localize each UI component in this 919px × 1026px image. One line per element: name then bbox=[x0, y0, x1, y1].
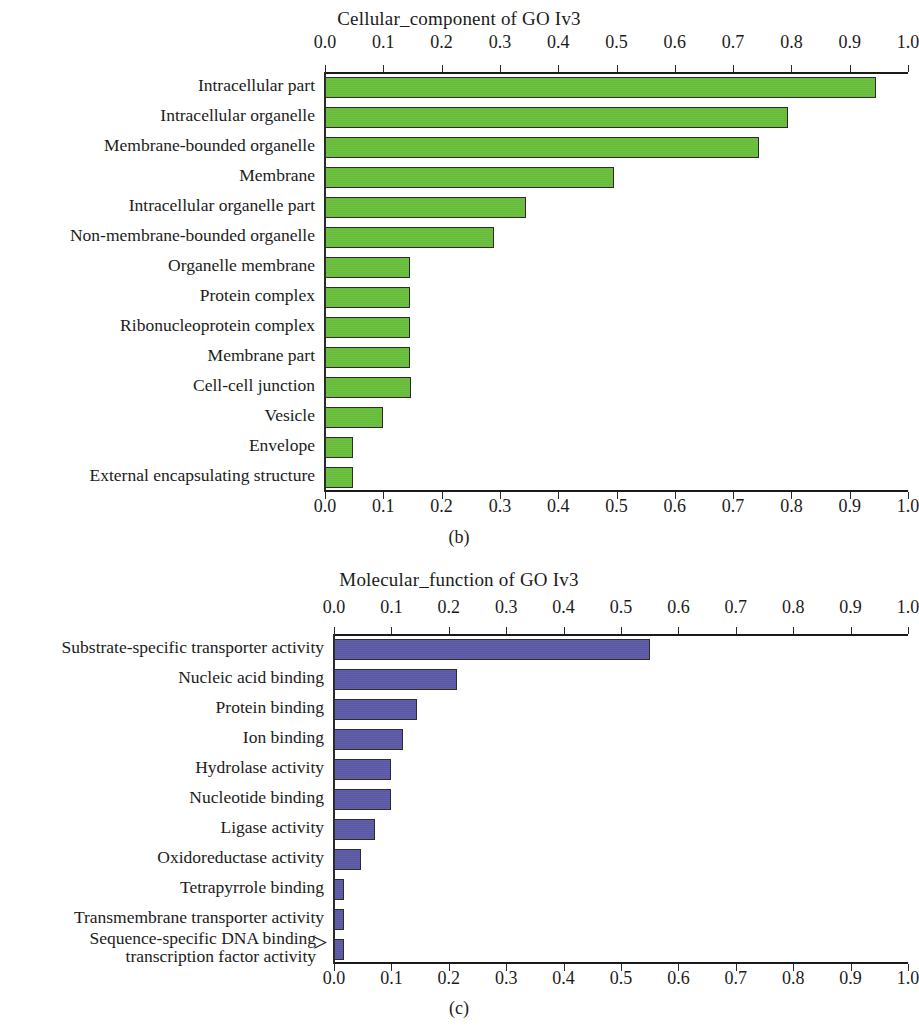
x-axis-tick-label: 0.5 bbox=[605, 32, 628, 53]
category-label: Membrane-bounded organelle bbox=[104, 136, 315, 154]
x-axis-tick-label: 0.9 bbox=[839, 597, 862, 618]
x-axis-tick-label: 1.0 bbox=[897, 32, 919, 53]
x-axis-tick-label: 0.9 bbox=[839, 968, 862, 989]
category-label: Envelope bbox=[249, 436, 315, 454]
x-axis-tick-label: 0.1 bbox=[372, 32, 395, 53]
category-label: Membrane bbox=[239, 166, 315, 184]
category-label: Substrate-specific transporter activity bbox=[62, 638, 324, 656]
x-axis-tick-label: 0.7 bbox=[725, 597, 748, 618]
x-axis-tick-label: 0.1 bbox=[380, 597, 403, 618]
bar bbox=[334, 819, 375, 840]
category-label: Protein complex bbox=[200, 286, 315, 304]
category-label: Ion binding bbox=[243, 728, 324, 746]
x-axis-tick-label: 0.4 bbox=[547, 32, 570, 53]
x-axis-tick-label: 0.9 bbox=[838, 32, 861, 53]
bar bbox=[325, 137, 759, 158]
x-axis-tick bbox=[736, 627, 737, 634]
x-axis-tick-label: 0.9 bbox=[838, 496, 861, 517]
x-axis-tick bbox=[564, 627, 565, 634]
category-label: Nucleotide binding bbox=[189, 788, 324, 806]
x-axis-tick-label: 0.1 bbox=[380, 968, 403, 989]
x-axis-top-tick-labels-c: 0.00.10.20.30.40.50.60.70.80.91.0 bbox=[0, 597, 918, 617]
x-axis-tick bbox=[506, 627, 507, 634]
category-label: Cell-cell junction bbox=[193, 376, 315, 394]
bar bbox=[325, 167, 614, 188]
category-label: Non-membrane-bounded organelle bbox=[70, 226, 315, 244]
x-axis-tick-label: 0.3 bbox=[495, 597, 518, 618]
bar bbox=[325, 227, 494, 248]
bar bbox=[334, 879, 344, 900]
plot-area-cellular-component bbox=[325, 72, 908, 492]
x-axis-tick-label: 0.7 bbox=[722, 496, 745, 517]
x-axis-tick bbox=[621, 627, 622, 634]
category-label: Transmembrane transporter activity bbox=[74, 908, 324, 926]
y-axis-line-b bbox=[324, 72, 326, 492]
panel-caption-c: (c) bbox=[0, 998, 918, 1019]
x-axis-tick-label: 1.0 bbox=[897, 496, 919, 517]
chart-title-molecular-function: Molecular_function of GO Iv3 bbox=[0, 569, 918, 591]
category-label: Intracellular organelle part bbox=[129, 196, 315, 214]
x-axis-tick-label: 0.7 bbox=[722, 32, 745, 53]
x-axis-bottom-tick-labels-b: 0.00.10.20.30.40.50.60.70.80.91.0 bbox=[0, 496, 918, 516]
x-axis-tick bbox=[851, 627, 852, 634]
bar bbox=[325, 437, 353, 458]
x-axis-tick-label: 0.8 bbox=[780, 496, 803, 517]
category-label: Intracellular part bbox=[198, 76, 315, 94]
bar bbox=[334, 909, 344, 930]
x-axis-tick-label: 0.2 bbox=[430, 32, 453, 53]
category-label: Nucleic acid binding bbox=[178, 668, 324, 686]
category-label: Sequence-specific DNA bindingtranscripti… bbox=[16, 929, 324, 965]
x-axis-tick bbox=[449, 627, 450, 634]
bar bbox=[334, 939, 344, 960]
x-axis-tick bbox=[442, 65, 443, 72]
x-axis-tick bbox=[850, 65, 851, 72]
x-axis-tick bbox=[675, 65, 676, 72]
bar bbox=[325, 107, 788, 128]
bar bbox=[334, 729, 403, 750]
x-axis-tick bbox=[793, 627, 794, 634]
category-label: Tetrapyrrole binding bbox=[180, 878, 324, 896]
bar bbox=[325, 347, 410, 368]
bar bbox=[334, 789, 391, 810]
bar bbox=[325, 407, 383, 428]
x-axis-tick-label: 0.2 bbox=[430, 496, 453, 517]
x-axis-tick-label: 0.2 bbox=[438, 597, 461, 618]
x-axis-tick-label: 0.7 bbox=[725, 968, 748, 989]
category-label: Hydrolase activity bbox=[195, 758, 324, 776]
x-axis-tick-label: 0.3 bbox=[495, 968, 518, 989]
x-axis-tick-label: 0.0 bbox=[314, 32, 337, 53]
x-axis-tick bbox=[558, 65, 559, 72]
x-axis-tick-label: 0.8 bbox=[780, 32, 803, 53]
bar bbox=[325, 377, 411, 398]
x-axis-tick-label: 1.0 bbox=[897, 597, 919, 618]
bar bbox=[325, 287, 410, 308]
x-axis-bottom-tick-labels-c: 0.00.10.20.30.40.50.60.70.80.91.0 bbox=[0, 968, 918, 988]
bar bbox=[325, 317, 410, 338]
x-axis-tick-label: 0.6 bbox=[667, 597, 690, 618]
category-label: Protein binding bbox=[216, 698, 324, 716]
x-axis-tick-label: 0.8 bbox=[782, 968, 805, 989]
bar bbox=[334, 639, 650, 660]
x-axis-tick bbox=[733, 65, 734, 72]
x-axis-tick bbox=[908, 65, 909, 72]
x-axis-tick bbox=[908, 627, 909, 634]
category-label: Oxidoreductase activity bbox=[157, 848, 324, 866]
x-axis-tick-label: 0.5 bbox=[610, 597, 633, 618]
x-axis-tick-label: 0.3 bbox=[489, 32, 512, 53]
x-axis-tick-label: 0.4 bbox=[547, 496, 570, 517]
category-label: Organelle membrane bbox=[168, 256, 315, 274]
category-label: External encapsulating structure bbox=[90, 466, 315, 484]
x-axis-top-line-c bbox=[334, 634, 908, 636]
bar bbox=[325, 467, 353, 488]
bar bbox=[325, 257, 410, 278]
x-axis-tick bbox=[383, 65, 384, 72]
panel-caption-b: (b) bbox=[0, 527, 918, 548]
x-axis-tick-label: 1.0 bbox=[897, 968, 919, 989]
x-axis-tick-label: 0.0 bbox=[323, 968, 346, 989]
x-axis-tick-label: 0.5 bbox=[605, 496, 628, 517]
x-axis-tick bbox=[325, 65, 326, 72]
x-axis-tick-label: 0.2 bbox=[438, 968, 461, 989]
x-axis-tick-label: 0.0 bbox=[314, 496, 337, 517]
x-axis-tick-label: 0.5 bbox=[610, 968, 633, 989]
x-axis-top-tick-labels-b: 0.00.10.20.30.40.50.60.70.80.91.0 bbox=[0, 32, 918, 52]
